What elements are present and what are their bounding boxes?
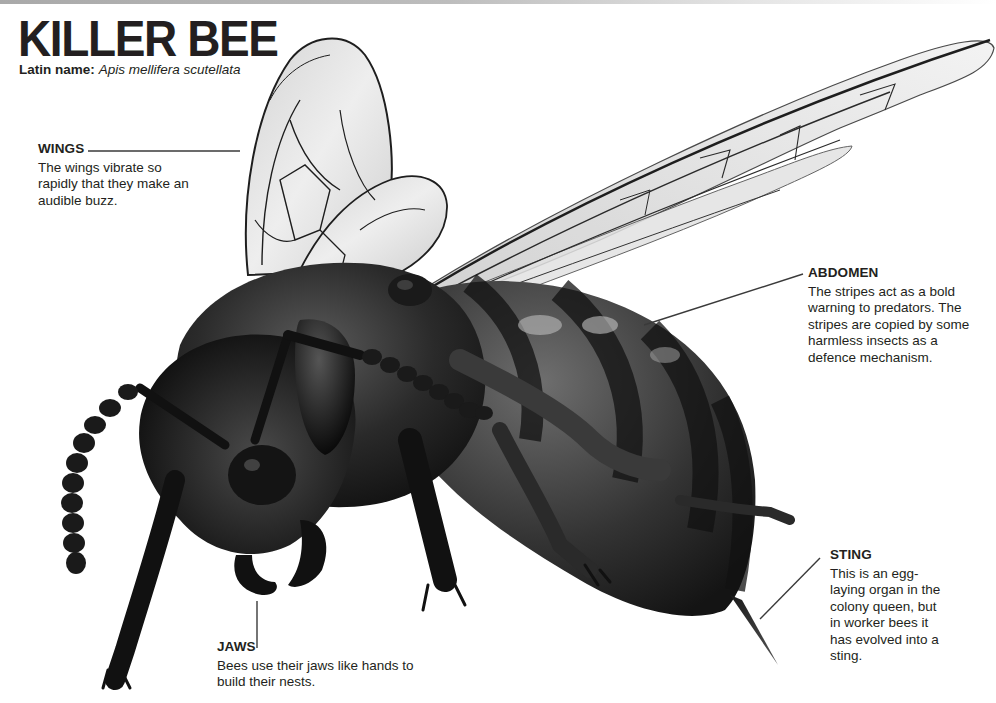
page-title: KILLER BEE [18,14,278,64]
abdomen-leader-line [644,274,803,325]
latin-name-label: Latin name: [19,62,95,77]
left-wing [246,39,447,275]
sting-leader-line [760,558,820,619]
latin-name-value: Apis mellifera scutellata [99,62,241,77]
callout-wings: WINGS The wings vibrate so rapidly that … [38,142,198,209]
callout-sting: STING This is an egg-laying organ in the… [830,548,950,665]
callout-heading: JAWS [217,640,417,654]
callout-heading: ABDOMEN [808,266,988,280]
callout-text: This is an egg-laying organ in the colon… [830,566,950,665]
callout-text: The wings vibrate so rapidly that they m… [38,160,198,210]
callout-heading: STING [830,548,950,562]
callout-heading: WINGS [38,142,198,156]
sting [730,595,778,665]
callout-abdomen: ABDOMEN The stripes act as a bold warnin… [808,266,988,366]
callout-jaws: JAWS Bees use their jaws like hands to b… [217,640,417,691]
callout-text: The stripes act as a bold warning to pre… [808,284,988,367]
callout-text: Bees use their jaws like hands to build … [217,658,417,691]
latin-name: Latin name:Apis mellifera scutellata [19,62,241,78]
